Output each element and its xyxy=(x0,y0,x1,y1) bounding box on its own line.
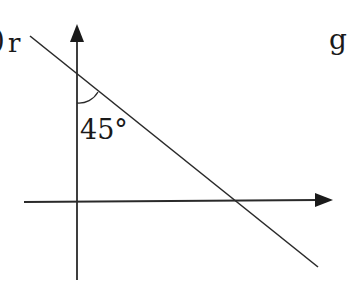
angle-label: 45° xyxy=(80,116,128,143)
x-axis xyxy=(24,200,318,202)
y-axis-arrowhead-icon xyxy=(70,24,84,42)
option-paren: ) xyxy=(0,26,5,54)
next-option-label: g xyxy=(329,26,347,54)
sloped-line xyxy=(30,36,318,267)
option-label: r xyxy=(8,30,20,56)
x-axis-arrowhead-icon xyxy=(315,193,333,207)
angle-arc xyxy=(77,92,98,103)
